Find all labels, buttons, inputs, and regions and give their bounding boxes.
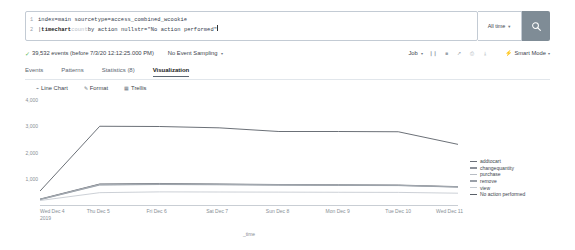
visualization-toolbar: ⌁ Line Chart ✎ Format ▦ Trellis xyxy=(36,85,146,91)
legend-swatch xyxy=(470,174,477,175)
line-chart-icon: ⌁ xyxy=(36,85,39,91)
x-axis-tick-label: Mon Dec 9 xyxy=(326,208,350,215)
job-controls: Job ▾ ❙❙ ■ ↗ ⎙ ⤓ ⚡ Smart Mode ▾ xyxy=(408,50,550,56)
time-range-label: All time xyxy=(488,23,506,29)
legend-item[interactable]: purchase xyxy=(470,171,525,178)
x-axis-tick-line: Wed Dec 4 xyxy=(40,208,65,215)
event-sampling-dropdown[interactable]: No Event Sampling ▾ xyxy=(168,50,223,56)
search-icon xyxy=(531,21,542,32)
legend-swatch xyxy=(470,187,477,188)
format-label: Format xyxy=(90,85,108,91)
legend-item[interactable]: changequantity xyxy=(470,165,525,172)
x-axis-tick-label: Sat Dec 7 xyxy=(206,208,228,215)
share-icon[interactable]: ↗ xyxy=(456,50,462,56)
x-axis-tick-label: Thu Dec 5 xyxy=(87,208,110,215)
x-axis-tick-line: Wed Dec 11 xyxy=(436,208,463,215)
tab-patterns[interactable]: Patterns xyxy=(61,67,83,76)
tab-visualization[interactable]: Visualization xyxy=(153,67,190,77)
y-axis-tick-label: 3,000 xyxy=(25,123,38,129)
pause-icon[interactable]: ❙❙ xyxy=(430,50,436,56)
legend-swatch xyxy=(470,180,477,181)
search-mode-label: Smart Mode xyxy=(514,50,546,56)
x-axis-tick-line: Tue Dec 10 xyxy=(385,208,411,215)
result-tabs: Events Patterns Statistics (8) Visualiza… xyxy=(25,64,550,80)
search-command-timechart: timechart xyxy=(41,25,71,35)
legend-item[interactable]: remove xyxy=(470,178,525,185)
search-mode-selector[interactable]: ⚡ Smart Mode ▾ xyxy=(505,50,550,56)
trellis-button[interactable]: ▦ Trellis xyxy=(124,85,146,91)
chart-legend: addtocartchangequantitypurchaseremovevie… xyxy=(470,158,525,198)
legend-item[interactable]: view xyxy=(470,184,525,191)
job-label: Job xyxy=(408,50,417,56)
x-axis-tick-line: 2019 xyxy=(40,215,65,222)
job-menu-button[interactable]: Job ▾ xyxy=(408,50,423,56)
legend-label: changequantity xyxy=(480,165,514,171)
legend-label: purchase xyxy=(480,171,501,177)
search-line-2-rest: by action nullstr="No action performed" xyxy=(88,25,217,35)
chevron-down-icon: ▼ xyxy=(507,24,511,29)
y-axis-tick-label: 4,000 xyxy=(25,97,38,103)
job-status-bar: ✓ 39,532 events (before 7/3/20 12:12:25.… xyxy=(25,47,550,59)
search-line-1-text: index=main sourcetype=access_combined_wc… xyxy=(38,15,187,25)
legend-swatch xyxy=(470,194,477,195)
chevron-down-icon: ▾ xyxy=(548,51,550,56)
x-axis-tick-label: Wed Dec 11 xyxy=(436,208,463,215)
event-count-label: 39,532 events (before 7/3/20 12:12:25.00… xyxy=(32,50,154,56)
event-count-group: ✓ 39,532 events (before 7/3/20 12:12:25.… xyxy=(25,50,154,57)
x-axis-tick-line: Thu Dec 5 xyxy=(87,208,110,215)
legend-label: remove xyxy=(480,178,497,184)
line-number: 2 xyxy=(30,25,38,35)
legend-item[interactable]: No action performed xyxy=(470,191,525,198)
chart-series-svg xyxy=(40,100,458,205)
chart-plot-area xyxy=(40,100,458,205)
x-axis-tick-line: Fri Dec 6 xyxy=(146,208,166,215)
search-function-count: count xyxy=(71,25,88,35)
legend-label: view xyxy=(480,185,490,191)
x-axis-line xyxy=(40,205,458,206)
legend-label: No action performed xyxy=(480,191,525,197)
tab-statistics[interactable]: Statistics (8) xyxy=(102,67,135,76)
search-bar: 1 index=main sourcetype=access_combined_… xyxy=(25,11,550,41)
stop-icon[interactable]: ■ xyxy=(443,50,449,56)
lightning-icon: ⚡ xyxy=(505,50,512,56)
chevron-down-icon: ▾ xyxy=(221,51,223,56)
search-query-input[interactable]: 1 index=main sourcetype=access_combined_… xyxy=(25,11,478,41)
chevron-down-icon: ▾ xyxy=(421,51,423,56)
search-line-2: 2 | timechart count by action nullstr="N… xyxy=(30,25,472,35)
line-number: 1 xyxy=(30,15,38,25)
x-axis-title: _time xyxy=(40,231,458,237)
print-icon[interactable]: ⎙ xyxy=(469,50,475,56)
y-axis-labels: 1,0002,0003,0004,000 xyxy=(18,100,38,205)
series-line-view xyxy=(40,192,458,201)
x-axis-tick-label: Tue Dec 10 xyxy=(385,208,411,215)
export-icon[interactable]: ⤓ xyxy=(482,50,488,56)
text-caret xyxy=(217,25,218,31)
chart-type-label: Line Chart xyxy=(41,85,68,91)
x-axis-tick-label: Sun Dec 8 xyxy=(266,208,289,215)
legend-swatch xyxy=(470,161,477,162)
x-axis-tick-line: Sat Dec 7 xyxy=(206,208,228,215)
x-axis-tick-label: Wed Dec 42019 xyxy=(40,208,65,221)
search-submit-button[interactable] xyxy=(522,11,550,41)
search-line-1: 1 index=main sourcetype=access_combined_… xyxy=(30,15,472,25)
event-sampling-label: No Event Sampling xyxy=(168,50,218,56)
trellis-label: Trellis xyxy=(131,85,146,91)
time-range-picker[interactable]: All time ▼ xyxy=(478,11,522,41)
x-axis-labels: Wed Dec 42019Thu Dec 5Fri Dec 6Sat Dec 7… xyxy=(40,208,458,228)
chart-type-selector[interactable]: ⌁ Line Chart xyxy=(36,85,68,91)
legend-swatch xyxy=(470,167,477,168)
line-chart: 1,0002,0003,0004,000 Wed Dec 42019Thu De… xyxy=(18,100,458,220)
format-button[interactable]: ✎ Format xyxy=(84,85,108,91)
x-axis-tick-line: Mon Dec 9 xyxy=(326,208,350,215)
check-icon: ✓ xyxy=(25,50,30,57)
splunk-search-page: 1 index=main sourcetype=access_combined_… xyxy=(0,0,575,250)
pencil-icon: ✎ xyxy=(84,85,88,91)
y-axis-tick-label: 2,000 xyxy=(25,150,38,156)
x-axis-tick-label: Fri Dec 6 xyxy=(146,208,166,215)
legend-label: addtocart xyxy=(480,158,501,164)
x-axis-tick-line: Sun Dec 8 xyxy=(266,208,289,215)
tab-events[interactable]: Events xyxy=(25,67,43,76)
legend-item[interactable]: addtocart xyxy=(470,158,525,165)
y-axis-tick-label: 1,000 xyxy=(25,176,38,182)
series-line-no-action-performed xyxy=(40,126,458,191)
